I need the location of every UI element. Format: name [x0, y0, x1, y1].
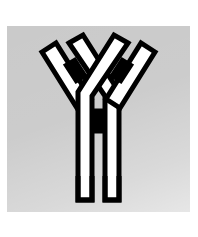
- disulfide-bond-hinge: [92, 110, 105, 132]
- antibody-diagram: [7, 26, 190, 212]
- antibody-figure-plate: [7, 26, 190, 212]
- figure-root: Antibody (immunoglobulin) schematic: [0, 0, 198, 237]
- disulfide-bond-hinge-mark: [92, 110, 105, 132]
